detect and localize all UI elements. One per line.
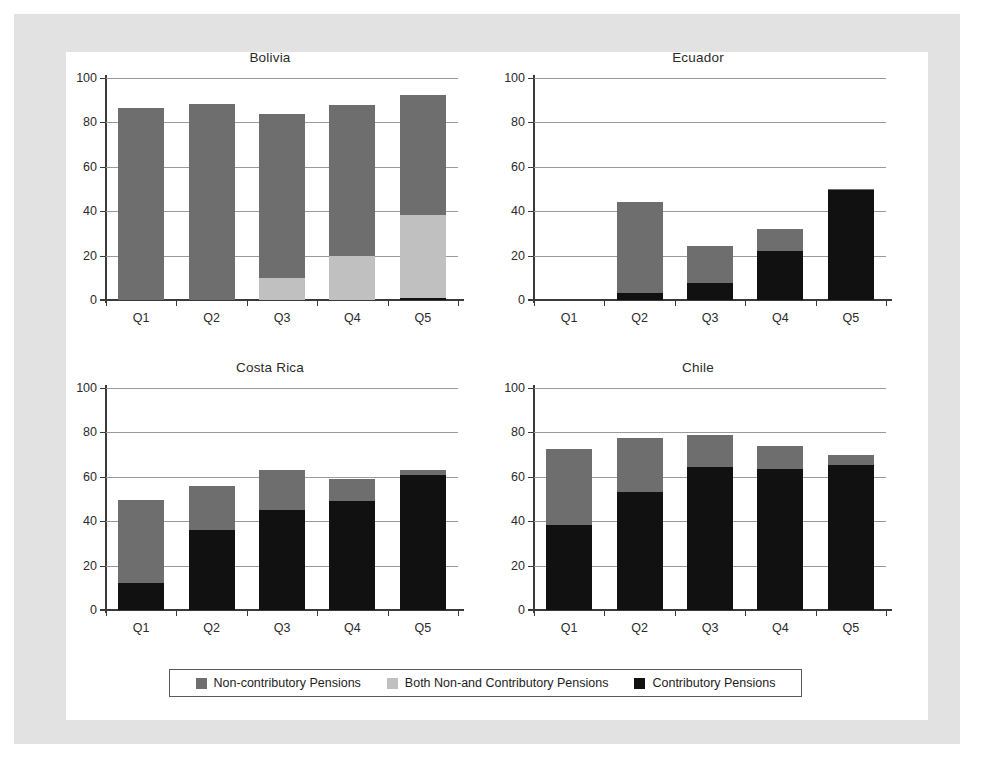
y-tick-label: 80 — [83, 425, 97, 439]
x-tick-mark — [816, 610, 817, 616]
y-tick-mark — [100, 122, 106, 123]
bar-q3[interactable] — [687, 78, 733, 300]
bar-q3[interactable] — [259, 388, 305, 610]
bar-segment — [400, 298, 446, 300]
x-tick-label-q5: Q5 — [414, 621, 431, 635]
y-tick-mark — [528, 521, 534, 522]
legend-item-non-contributory[interactable]: Non-contributory Pensions — [196, 676, 361, 690]
panel-title-costa-rica: Costa Rica — [60, 360, 480, 375]
x-tick-mark — [534, 610, 535, 616]
y-tick-mark — [100, 566, 106, 567]
x-tick-mark — [604, 300, 605, 306]
panel-title-bolivia: Bolivia — [60, 50, 480, 65]
bar-segment — [617, 202, 663, 293]
bar-q5[interactable] — [828, 78, 874, 300]
x-tick-label-q5: Q5 — [414, 311, 431, 325]
x-tick-label-q5: Q5 — [842, 621, 859, 635]
bar-q1[interactable] — [118, 78, 164, 300]
x-tick-mark — [176, 610, 177, 616]
x-tick-mark — [247, 300, 248, 306]
y-tick-mark — [528, 388, 534, 389]
x-tick-label-q2: Q2 — [631, 621, 648, 635]
y-tick-label: 80 — [511, 425, 525, 439]
y-axis-line — [533, 385, 535, 613]
x-tick-mark — [886, 300, 887, 306]
bar-q4[interactable] — [757, 78, 803, 300]
x-tick-mark — [388, 610, 389, 616]
y-tick-label: 40 — [83, 204, 97, 218]
bar-segment — [400, 95, 446, 215]
legend-swatch-icon — [196, 678, 207, 689]
y-tick-mark — [100, 521, 106, 522]
x-tick-mark — [534, 300, 535, 306]
bar-segment — [757, 446, 803, 469]
y-tick-label: 60 — [511, 160, 525, 174]
bar-q2[interactable] — [189, 388, 235, 610]
panel-title-chile: Chile — [488, 360, 908, 375]
bar-q4[interactable] — [329, 388, 375, 610]
x-tick-mark — [604, 610, 605, 616]
x-tick-label-q1: Q1 — [133, 311, 150, 325]
y-tick-mark — [528, 167, 534, 168]
bar-segment — [546, 525, 592, 610]
bar-q1[interactable] — [546, 388, 592, 610]
bar-q5[interactable] — [400, 388, 446, 610]
chart-legend: Non-contributory PensionsBoth Non-and Co… — [169, 669, 802, 697]
y-tick-mark — [528, 211, 534, 212]
y-tick-label: 60 — [511, 470, 525, 484]
bar-q2[interactable] — [617, 388, 663, 610]
bar-q5[interactable] — [400, 78, 446, 300]
y-tick-label: 0 — [90, 293, 97, 307]
bar-segment — [400, 215, 446, 298]
y-tick-mark — [528, 78, 534, 79]
bar-q3[interactable] — [259, 78, 305, 300]
bar-segment — [259, 114, 305, 278]
bar-segment — [687, 467, 733, 610]
x-tick-mark — [816, 300, 817, 306]
y-axis-line — [105, 385, 107, 613]
bar-segment — [329, 105, 375, 256]
bar-segment — [687, 246, 733, 284]
bar-q4[interactable] — [329, 78, 375, 300]
y-axis-line — [105, 75, 107, 303]
x-tick-mark — [176, 300, 177, 306]
x-tick-mark — [745, 300, 746, 306]
bar-q5[interactable] — [828, 388, 874, 610]
x-tick-label-q4: Q4 — [344, 311, 361, 325]
x-tick-label-q3: Q3 — [274, 621, 291, 635]
y-tick-label: 100 — [504, 71, 525, 85]
x-tick-label-q4: Q4 — [772, 311, 789, 325]
bar-segment — [329, 479, 375, 501]
bar-q1[interactable] — [118, 388, 164, 610]
y-tick-label: 0 — [518, 603, 525, 617]
plot-area-ecuador: 020406080100Q1Q2Q3Q4Q5 — [534, 78, 886, 300]
x-tick-label-q3: Q3 — [274, 311, 291, 325]
bar-segment — [259, 510, 305, 610]
bar-segment — [189, 104, 235, 300]
legend-item-contributory[interactable]: Contributory Pensions — [634, 676, 775, 690]
legend-label: Both Non-and Contributory Pensions — [405, 676, 609, 690]
bar-segment — [617, 438, 663, 492]
bar-segment — [828, 465, 874, 610]
bar-q3[interactable] — [687, 388, 733, 610]
chart-panel-chile: Chile 020406080100Q1Q2Q3Q4Q5 — [488, 358, 908, 658]
y-tick-mark — [100, 78, 106, 79]
x-tick-mark — [675, 610, 676, 616]
y-tick-mark — [100, 477, 106, 478]
x-tick-mark — [675, 300, 676, 306]
y-tick-mark — [100, 167, 106, 168]
bar-q4[interactable] — [757, 388, 803, 610]
bar-segment — [400, 475, 446, 610]
x-tick-mark — [745, 610, 746, 616]
y-tick-label: 20 — [83, 559, 97, 573]
y-tick-label: 20 — [83, 249, 97, 263]
bar-q2[interactable] — [617, 78, 663, 300]
bar-q1[interactable] — [546, 78, 592, 300]
figure-root: Bolivia 020406080100Q1Q2Q3Q4Q5 Ecuador 0… — [0, 0, 981, 772]
y-tick-mark — [528, 122, 534, 123]
bar-q2[interactable] — [189, 78, 235, 300]
legend-item-both[interactable]: Both Non-and Contributory Pensions — [387, 676, 609, 690]
bar-segment — [757, 251, 803, 300]
y-tick-mark — [100, 432, 106, 433]
chart-panel-costa-rica: Costa Rica 020406080100Q1Q2Q3Q4Q5 — [60, 358, 480, 658]
